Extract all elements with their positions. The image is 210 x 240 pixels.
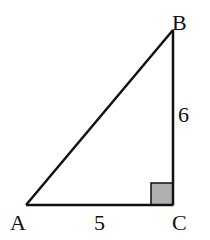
vertex-label-a: A: [10, 210, 26, 235]
triangle-svg: B A C 6 5: [0, 0, 210, 240]
right-angle-marker: [151, 183, 173, 205]
triangle-diagram: B A C 6 5: [0, 0, 210, 240]
vertex-label-b: B: [172, 10, 187, 35]
side-label-ac: 5: [94, 210, 105, 235]
side-ab: [26, 30, 173, 205]
side-label-bc: 6: [178, 102, 189, 127]
vertex-label-c: C: [172, 210, 187, 235]
